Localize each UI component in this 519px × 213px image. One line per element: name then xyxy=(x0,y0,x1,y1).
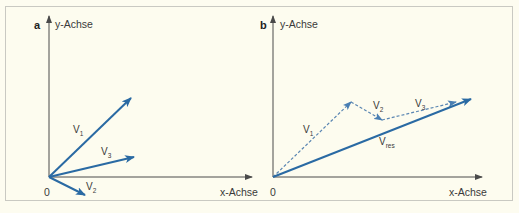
vector-label-v3-a: V3 xyxy=(101,146,112,159)
vector-resultant-b xyxy=(273,99,471,177)
origin-label-b: 0 xyxy=(270,186,276,198)
x-axis-label-b: x-Achse xyxy=(449,186,487,198)
origin-label-a: 0 xyxy=(44,186,50,198)
vector-label-v2-b: V2 xyxy=(373,100,384,113)
vector-label-v3-b: V3 xyxy=(415,98,426,111)
panel-a: a y-Achse x-Achse 0 V1 V3 V2 xyxy=(34,16,258,198)
y-axis-label-a: y-Achse xyxy=(55,18,93,30)
vector-label-v1-b: V1 xyxy=(303,124,314,137)
vector-addition-diagram: a y-Achse x-Achse 0 V1 V3 V2 b y-Achse x… xyxy=(0,0,519,213)
vector-v1-a xyxy=(49,98,131,177)
vector-v3-a xyxy=(49,157,134,177)
y-axis-label-b: y-Achse xyxy=(280,18,318,30)
panel-b: b y-Achse x-Achse 0 V1 V2 V3 Vres xyxy=(260,16,487,198)
panel-label-a: a xyxy=(34,19,41,31)
vector-v2-a xyxy=(49,177,85,195)
vector-v1-b xyxy=(273,102,351,177)
vector-label-v1-a: V1 xyxy=(73,124,84,137)
vector-label-vres-b: Vres xyxy=(379,136,395,149)
x-axis-label-a: x-Achse xyxy=(220,186,258,198)
vector-label-v2-a: V2 xyxy=(86,181,97,194)
panel-label-b: b xyxy=(260,19,267,31)
